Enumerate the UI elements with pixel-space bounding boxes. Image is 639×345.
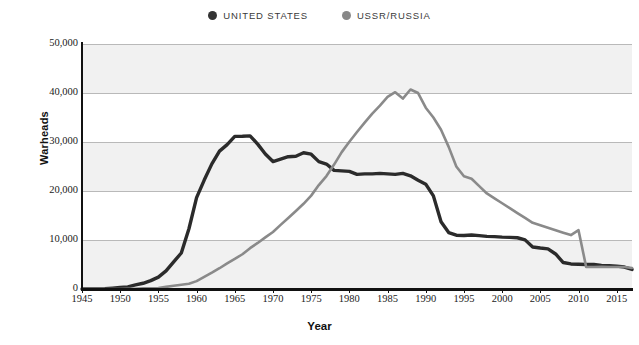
y-tick-label-40000: 40,000 [6,86,78,97]
y-tick-label-50000: 50,000 [6,37,78,48]
x-tick-label-2005: 2005 [520,293,560,304]
y-tick-label-10000: 10,000 [6,233,78,244]
y-axis-line [81,42,83,291]
legend-dot-united-states [208,11,217,20]
warheads-line-chart: UNITED STATES USSR/RUSSIA Warheads 010,0… [0,0,639,345]
series-lines [82,44,632,289]
x-tick-label-1960: 1960 [177,293,217,304]
x-axis-line [81,288,633,291]
x-tick-mark-1985 [388,289,389,293]
x-tick-mark-1955 [158,289,159,293]
x-tick-label-1995: 1995 [444,293,484,304]
x-tick-mark-2005 [540,289,541,293]
x-tick-label-1950: 1950 [100,293,140,304]
x-tick-mark-1975 [311,289,312,293]
y-tick-label-0: 0 [6,282,78,293]
y-tick-label-30000: 30,000 [6,135,78,146]
x-tick-mark-1980 [349,289,350,293]
legend-item-ussr-russia[interactable]: USSR/RUSSIA [342,10,431,21]
legend-dot-ussr-russia [342,11,351,20]
x-tick-mark-1990 [426,289,427,293]
x-tick-label-1955: 1955 [138,293,178,304]
x-tick-mark-2015 [617,289,618,293]
y-tick-label-20000: 20,000 [6,184,78,195]
x-tick-label-2000: 2000 [482,293,522,304]
x-tick-mark-1950 [120,289,121,293]
x-tick-mark-1960 [197,289,198,293]
x-tick-label-1980: 1980 [329,293,369,304]
x-tick-label-1965: 1965 [215,293,255,304]
series-line-ussr-russia [82,89,632,289]
x-tick-mark-2010 [579,289,580,293]
plot-area [82,44,632,289]
x-axis-title: Year [0,320,639,332]
chart-legend: UNITED STATES USSR/RUSSIA [0,10,639,21]
x-axis-tick-labels: 1945195019551960196519701975198019851990… [0,293,639,313]
x-tick-mark-2000 [502,289,503,293]
legend-label-united-states: UNITED STATES [223,10,308,21]
series-line-united-states [82,136,632,289]
x-tick-label-1975: 1975 [291,293,331,304]
x-tick-label-1945: 1945 [62,293,102,304]
x-tick-mark-1945 [82,289,83,293]
x-tick-mark-1970 [273,289,274,293]
legend-label-ussr-russia: USSR/RUSSIA [357,10,431,21]
x-tick-mark-1965 [235,289,236,293]
x-tick-label-2015: 2015 [597,293,637,304]
x-tick-mark-1995 [464,289,465,293]
legend-item-united-states[interactable]: UNITED STATES [208,10,308,21]
x-tick-label-2010: 2010 [559,293,599,304]
x-tick-label-1985: 1985 [368,293,408,304]
x-tick-label-1970: 1970 [253,293,293,304]
x-tick-label-1990: 1990 [406,293,446,304]
